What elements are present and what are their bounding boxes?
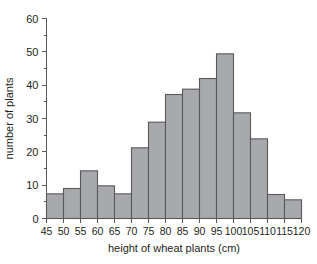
histogram-bar: [132, 148, 149, 219]
histogram-bar: [47, 194, 64, 219]
x-tick-label: 60: [92, 225, 104, 237]
x-tick-label: 105: [242, 225, 260, 237]
y-tick-label: 60: [26, 13, 38, 25]
x-tick-label: 100: [225, 225, 243, 237]
x-tick-label: 120: [293, 225, 311, 237]
x-tick-label: 110: [259, 225, 276, 237]
histogram-bar: [149, 122, 166, 218]
y-axis-title: number of plants: [3, 77, 15, 159]
histogram-bar: [81, 171, 98, 219]
y-tick-label: 10: [26, 179, 38, 191]
x-tick-label: 95: [211, 225, 223, 237]
y-tick-label: 0: [32, 213, 38, 225]
histogram-figure: 0102030405060455055606570758085909510010…: [0, 0, 317, 264]
x-tick-label: 90: [194, 225, 206, 237]
histogram-bar: [98, 186, 115, 219]
x-tick-label: 70: [126, 225, 138, 237]
histogram-bar: [115, 194, 132, 219]
x-tick-label: 75: [143, 225, 155, 237]
histogram-bar: [234, 113, 251, 219]
histogram-bar: [285, 200, 302, 219]
x-tick-label: 65: [109, 225, 121, 237]
histogram-bar: [268, 195, 285, 219]
x-tick-label: 55: [75, 225, 87, 237]
x-tick-label: 115: [276, 225, 293, 237]
histogram-bar: [217, 54, 234, 219]
histogram-bar: [183, 89, 200, 218]
histogram-bar: [64, 189, 81, 219]
wheat-plant-height-histogram: 0102030405060455055606570758085909510010…: [0, 0, 317, 264]
histogram-bar: [166, 95, 183, 219]
x-tick-label: 50: [58, 225, 70, 237]
x-tick-label: 45: [41, 225, 53, 237]
histogram-bar: [251, 139, 268, 219]
x-axis-title: height of wheat plants (cm): [108, 242, 240, 254]
y-tick-label: 50: [26, 46, 38, 58]
histogram-bar: [200, 79, 217, 219]
x-tick-label: 80: [160, 225, 172, 237]
x-tick-label: 85: [177, 225, 189, 237]
y-tick-label: 20: [26, 146, 38, 158]
bars-group: [47, 54, 302, 219]
y-tick-label: 40: [26, 79, 38, 91]
y-tick-label: 30: [26, 113, 38, 125]
